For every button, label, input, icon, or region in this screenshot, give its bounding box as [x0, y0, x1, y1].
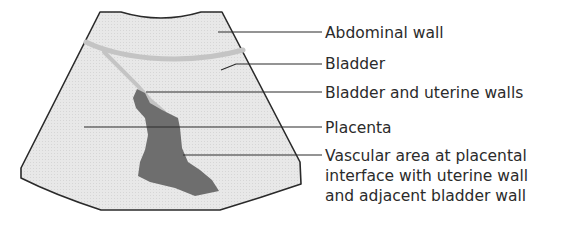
label-bladder: Bladder: [325, 55, 385, 73]
label-bladder-uterine-walls: Bladder and uterine walls: [325, 84, 523, 102]
ultrasound-diagram: [0, 0, 572, 245]
label-vascular-area-line3: and adjacent bladder wall: [325, 187, 526, 205]
label-vascular-area-line2: interface with uterine wall: [325, 167, 528, 185]
label-placenta: Placenta: [325, 119, 392, 137]
label-vascular-area-line1: Vascular area at placental: [325, 147, 527, 165]
label-abdominal-wall: Abdominal wall: [325, 24, 444, 42]
